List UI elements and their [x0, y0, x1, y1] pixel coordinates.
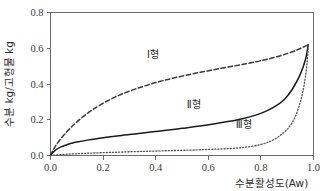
y-axis-title: 수분 kg/고형물 kg — [3, 41, 15, 127]
x-tick-label: 0.6 — [202, 162, 215, 173]
series-annotations: Ⅰ형Ⅱ형Ⅲ형 — [147, 49, 252, 130]
curve-series-3 — [51, 45, 309, 156]
sorption-isotherm-chart: 0.00.20.40.60.81.0 0.00.20.40.60.8 Ⅰ형Ⅱ형Ⅲ… — [0, 0, 333, 191]
y-tick-label: 0.4 — [30, 79, 44, 90]
y-axis-ticks: 0.00.20.40.60.8 — [30, 7, 50, 161]
y-tick-label: 0.6 — [30, 43, 43, 54]
axes-group — [51, 13, 314, 156]
x-tick-label: 0.4 — [149, 162, 163, 173]
y-tick-label: 0.8 — [30, 7, 43, 18]
x-tick-label: 0.8 — [254, 162, 267, 173]
curve-series-2 — [51, 45, 309, 156]
x-tick-label: 0.0 — [44, 162, 57, 173]
x-axis-title: 수분활성도(Aw) — [235, 177, 309, 189]
x-tick-label: 1.0 — [307, 162, 320, 173]
series-label-1: Ⅰ형 — [147, 49, 159, 60]
y-tick-label: 0.0 — [30, 150, 43, 161]
x-tick-label: 0.2 — [97, 162, 110, 173]
curve-series-1 — [51, 45, 309, 156]
series-label-3: Ⅲ형 — [236, 119, 252, 130]
chart-canvas: 0.00.20.40.60.81.0 0.00.20.40.60.8 Ⅰ형Ⅱ형Ⅲ… — [0, 0, 333, 191]
data-curves — [51, 45, 309, 156]
series-label-2: Ⅱ형 — [187, 99, 201, 110]
x-axis-ticks: 0.00.20.40.60.81.0 — [44, 156, 320, 173]
y-tick-label: 0.2 — [30, 114, 43, 125]
